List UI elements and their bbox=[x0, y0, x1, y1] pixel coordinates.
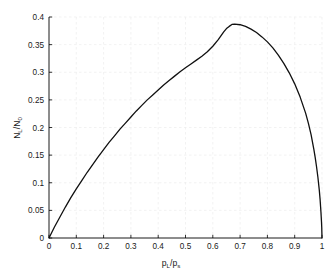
x-tick-label: 0.9 bbox=[289, 242, 301, 251]
y-tick-label: 0.25 bbox=[28, 96, 44, 105]
y-tick-label: 0.3 bbox=[33, 68, 45, 77]
y-tick-label: 0.35 bbox=[28, 41, 44, 50]
y-tick-label: 0 bbox=[39, 234, 44, 243]
y-axis-title-sub2: 0 bbox=[16, 117, 23, 121]
y-tick-label: 0.15 bbox=[28, 151, 44, 160]
x-tick-label: 0.3 bbox=[125, 242, 137, 251]
x-tick-label: 0.8 bbox=[262, 242, 274, 251]
x-tick-label: 0.1 bbox=[71, 242, 83, 251]
svg-text:pL/ps: pL/ps bbox=[162, 258, 181, 269]
x-axis-title-sub2: s bbox=[177, 262, 180, 269]
x-tick-label: 0.6 bbox=[207, 242, 219, 251]
y-tick-label: 0.05 bbox=[28, 206, 44, 215]
x-axis-tick-labels: 00.10.20.30.40.50.60.70.80.91 bbox=[47, 242, 325, 251]
x-tick-label: 0.4 bbox=[153, 242, 165, 251]
x-tick-label: 0 bbox=[47, 242, 52, 251]
x-tick-label: 0.7 bbox=[234, 242, 246, 251]
y-axis-tick-labels: 00.050.10.150.20.250.30.350.4 bbox=[28, 13, 44, 243]
y-axis-title: NL/N0 bbox=[12, 117, 23, 139]
y-tick-label: 0.1 bbox=[33, 179, 45, 188]
y-axis-ticks bbox=[49, 17, 52, 238]
x-axis-title: pL/ps bbox=[162, 258, 181, 269]
line-chart: 00.10.20.30.40.50.60.70.80.91 00.050.10.… bbox=[0, 0, 336, 276]
x-tick-label: 1 bbox=[320, 242, 325, 251]
faint-header-text bbox=[6, 0, 330, 9]
svg-text:NL/N0: NL/N0 bbox=[12, 117, 23, 139]
y-tick-label: 0.4 bbox=[33, 13, 45, 22]
x-axis-ticks bbox=[49, 235, 322, 238]
x-tick-label: 0.5 bbox=[180, 242, 192, 251]
x-tick-label: 0.2 bbox=[98, 242, 110, 251]
chart-figure: 00.10.20.30.40.50.60.70.80.91 00.050.10.… bbox=[0, 0, 336, 276]
y-tick-label: 0.2 bbox=[33, 124, 45, 133]
data-curve bbox=[49, 24, 322, 238]
